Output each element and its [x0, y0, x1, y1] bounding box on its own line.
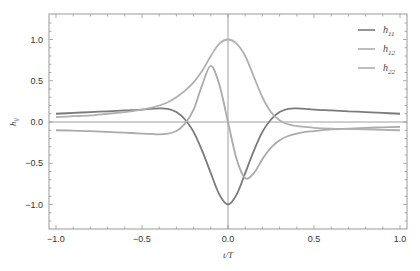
x-tick-label: 0.0 [222, 234, 235, 244]
y-tick-label: 1.0 [30, 35, 43, 45]
line-chart: −1.0−0.50.00.51.01.00.50.0−0.5−1.0 h11h1… [0, 0, 420, 271]
legend-label-h22: h22 [383, 62, 396, 76]
x-tick-label: 1.0 [394, 234, 407, 244]
x-axis-label: t/T [223, 250, 234, 260]
legend-label-h12: h12 [383, 43, 396, 57]
y-tick-label: −0.5 [25, 158, 43, 168]
y-axis-label: hij [8, 118, 19, 126]
x-tick-label: −1.0 [47, 234, 65, 244]
y-tick-label: 0.0 [30, 117, 43, 127]
y-tick-label: 0.5 [30, 76, 43, 86]
y-tick-label: −1.0 [25, 200, 43, 210]
x-tick-label: −0.5 [133, 234, 151, 244]
legend-label-h11: h11 [383, 24, 394, 38]
legend: h11h12h22 [358, 24, 396, 76]
x-tick-label: 0.5 [308, 234, 321, 244]
